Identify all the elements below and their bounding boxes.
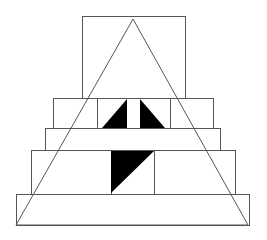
pyramid-tiers [17, 17, 250, 226]
black-triangles [102, 99, 165, 193]
tier-3-black-triangle [111, 151, 154, 193]
pyramid-diagram [0, 0, 267, 240]
tier-4-rect [17, 195, 250, 226]
cell-dividers [98, 99, 171, 195]
tier-1-right-black-triangle [140, 99, 165, 128]
tier-1-left-black-triangle [102, 99, 127, 128]
tier-2-rect [46, 129, 221, 151]
tier-1-rect [54, 99, 214, 129]
